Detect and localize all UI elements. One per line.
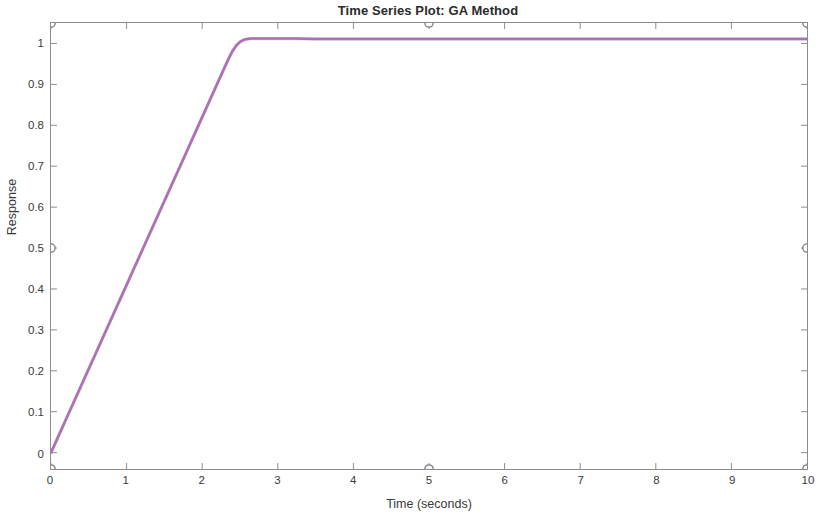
tick-marks: [51, 23, 807, 469]
y-tick-label: 0.4: [28, 283, 44, 295]
y-tick-label: 0.1: [28, 406, 44, 418]
plot-area: [50, 22, 808, 470]
x-tick-label: 10: [802, 474, 815, 486]
y-tick-label: 0.5: [28, 242, 44, 254]
x-tick-label: 6: [502, 474, 508, 486]
x-tick-label: 0: [47, 474, 53, 486]
x-tick-label: 4: [350, 474, 356, 486]
x-axis-title: Time (seconds): [50, 497, 808, 511]
y-tick-label: 1: [38, 37, 44, 49]
x-tick-label: 7: [577, 474, 583, 486]
x-tick-label: 9: [729, 474, 735, 486]
series-lines: [51, 39, 807, 453]
plot-canvas: [51, 23, 807, 469]
y-tick-label: 0.8: [28, 119, 44, 131]
y-tick-label: 0.3: [28, 324, 44, 336]
y-tick-label: 0.9: [28, 78, 44, 90]
y-tick-label: 0.7: [28, 160, 44, 172]
y-tick-label: 0.6: [28, 201, 44, 213]
x-tick-label: 1: [123, 474, 129, 486]
chart-title: Time Series Plot: GA Method: [48, 3, 808, 18]
x-tick-label: 3: [274, 474, 280, 486]
x-tick-label: 5: [426, 474, 432, 486]
chart-figure: Time Series Plot: GA Method 00.10.20.30.…: [0, 0, 826, 522]
y-tick-label: 0.2: [28, 365, 44, 377]
y-axis-title: Response: [5, 157, 19, 257]
y-tick-label: 0: [38, 448, 44, 460]
x-tick-label: 2: [198, 474, 204, 486]
x-axis-tick-labels: 012345678910: [50, 474, 826, 492]
border-markers: [51, 23, 807, 469]
x-tick-label: 8: [653, 474, 659, 486]
